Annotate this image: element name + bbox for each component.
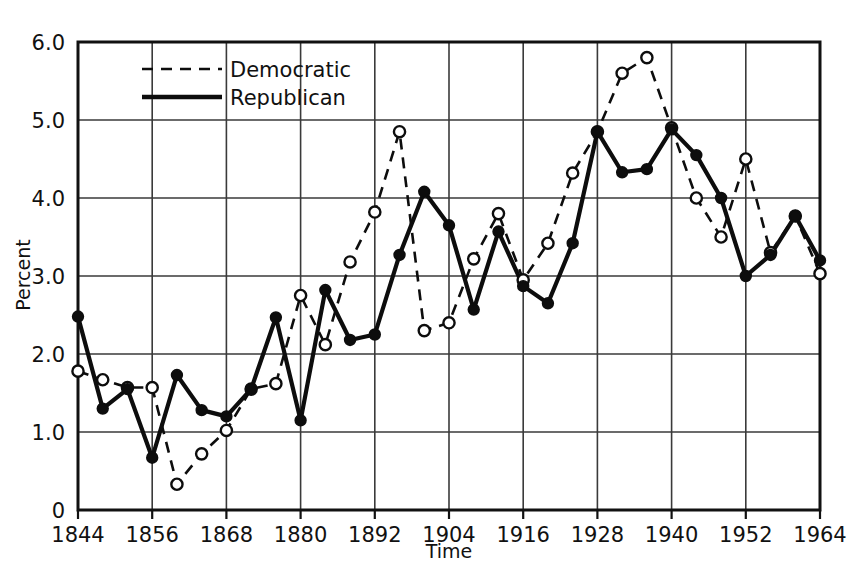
- x-tick-label: 1880: [274, 523, 327, 547]
- data-point-republican: [815, 255, 826, 266]
- data-point-democratic: [97, 374, 108, 385]
- data-point-republican: [73, 311, 84, 322]
- data-point-republican: [543, 298, 554, 309]
- data-point-republican: [147, 452, 158, 463]
- data-point-republican: [122, 384, 133, 395]
- data-point-democratic: [691, 192, 702, 203]
- data-point-democratic: [493, 208, 504, 219]
- data-point-republican: [295, 415, 306, 426]
- x-tick-label: 1928: [571, 523, 624, 547]
- data-point-republican: [172, 370, 183, 381]
- data-point-republican: [394, 250, 405, 261]
- x-tick-label: 1844: [51, 523, 104, 547]
- data-point-democratic: [617, 68, 628, 79]
- data-point-republican: [617, 167, 628, 178]
- y-tick-label: 3.0: [32, 265, 65, 289]
- line-chart: 01.02.03.04.05.06.0 18441856186818801892…: [0, 0, 865, 578]
- data-point-republican: [221, 411, 232, 422]
- x-tick-label: 1964: [793, 523, 846, 547]
- data-point-republican: [790, 211, 801, 222]
- x-tick-label: 1892: [348, 523, 401, 547]
- data-point-democratic: [641, 52, 652, 63]
- y-tick-labels: 01.02.03.04.05.06.0: [32, 31, 65, 523]
- data-point-democratic: [320, 339, 331, 350]
- data-point-democratic: [715, 231, 726, 242]
- data-point-republican: [246, 384, 257, 395]
- data-point-republican: [641, 164, 652, 175]
- data-point-democratic: [542, 238, 553, 249]
- data-point-democratic: [468, 253, 479, 264]
- data-point-republican: [493, 226, 504, 237]
- x-tick-label: 1940: [645, 523, 698, 547]
- data-point-democratic: [72, 366, 83, 377]
- data-point-republican: [468, 304, 479, 315]
- x-tick-label: 1856: [125, 523, 178, 547]
- y-axis-title: Percent: [12, 239, 34, 311]
- data-point-republican: [691, 150, 702, 161]
- data-point-democratic: [394, 126, 405, 137]
- data-point-republican: [320, 285, 331, 296]
- data-point-democratic: [814, 268, 825, 279]
- data-point-democratic: [740, 153, 751, 164]
- data-point-democratic: [221, 425, 232, 436]
- chart-legend: Democratic Republican: [142, 58, 351, 110]
- y-tick-label: 0: [52, 499, 65, 523]
- data-point-democratic: [369, 206, 380, 217]
- data-point-republican: [518, 281, 529, 292]
- y-tick-label: 2.0: [32, 343, 65, 367]
- gridlines-group: [78, 42, 820, 510]
- data-point-republican: [345, 335, 356, 346]
- data-point-republican: [196, 405, 207, 416]
- data-point-republican: [592, 126, 603, 137]
- data-point-democratic: [171, 479, 182, 490]
- legend-label-republican: Republican: [230, 86, 346, 110]
- x-axis-title: Time: [425, 540, 473, 562]
- data-point-republican: [740, 271, 751, 282]
- data-point-republican: [444, 220, 455, 231]
- data-point-republican: [666, 124, 677, 135]
- legend-label-democratic: Democratic: [230, 58, 351, 82]
- data-point-democratic: [270, 378, 281, 389]
- y-tick-label: 6.0: [32, 31, 65, 55]
- data-point-democratic: [443, 317, 454, 328]
- data-point-republican: [419, 186, 430, 197]
- x-tick-label: 1916: [496, 523, 549, 547]
- y-tick-label: 4.0: [32, 187, 65, 211]
- x-tick-label: 1868: [200, 523, 253, 547]
- data-point-republican: [270, 312, 281, 323]
- data-point-republican: [567, 238, 578, 249]
- data-point-democratic: [295, 290, 306, 301]
- x-tick-label: 1952: [719, 523, 772, 547]
- data-point-republican: [369, 329, 380, 340]
- chart-figure: 01.02.03.04.05.06.0 18441856186818801892…: [0, 0, 865, 578]
- data-point-democratic: [567, 167, 578, 178]
- data-point-democratic: [147, 382, 158, 393]
- data-point-democratic: [344, 256, 355, 267]
- data-point-democratic: [196, 448, 207, 459]
- data-point-republican: [97, 403, 108, 414]
- data-point-republican: [765, 250, 776, 261]
- y-tick-label: 5.0: [32, 109, 65, 133]
- y-tick-label: 1.0: [32, 421, 65, 445]
- data-point-democratic: [419, 325, 430, 336]
- data-point-republican: [716, 193, 727, 204]
